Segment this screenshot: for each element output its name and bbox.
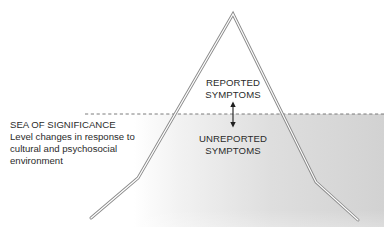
unreported-line-1: UNREPORTED	[183, 133, 283, 145]
sea-description-line-2: cultural and psychosocial	[10, 143, 135, 155]
unreported-line-2: SYMPTOMS	[183, 145, 283, 157]
reported-symptoms-label: REPORTED SYMPTOMS	[183, 77, 283, 100]
sea-heading: SEA OF SIGNIFICANCE	[10, 119, 135, 131]
reported-line-2: SYMPTOMS	[183, 89, 283, 101]
sea-description-line-3: environment	[10, 155, 135, 167]
sea-of-significance-label: SEA OF SIGNIFICANCE Level changes in res…	[10, 119, 135, 167]
reported-line-1: REPORTED	[183, 77, 283, 89]
sea-description-line-1: Level changes in response to	[10, 131, 135, 143]
iceberg-diagram	[0, 0, 392, 236]
unreported-symptoms-label: UNREPORTED SYMPTOMS	[183, 133, 283, 156]
